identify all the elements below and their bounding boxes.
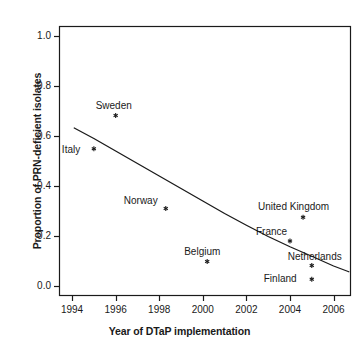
point-label-italy: Italy — [62, 145, 80, 155]
point-label-norway: Norway — [124, 196, 158, 206]
point-label-finland: Finland — [264, 274, 297, 284]
point-label-united-kingdom: United Kingdom — [258, 202, 329, 212]
x-tick-label-6: 2006 — [310, 305, 358, 315]
x-tick-label-2: 1998 — [135, 305, 183, 315]
y-tick-label-1: 0.2 — [17, 231, 51, 241]
point-label-sweden: Sweden — [96, 101, 132, 111]
x-tick-label-0: 1994 — [48, 305, 96, 315]
point-label-france: France — [256, 227, 287, 237]
marker-netherlands — [310, 263, 314, 268]
marker-italy — [92, 146, 96, 151]
marker-norway — [164, 206, 168, 211]
marker-sweden — [114, 113, 118, 118]
y-tick-label-0: 0.0 — [17, 281, 51, 291]
point-label-belgium: Belgium — [184, 247, 220, 257]
y-tick-label-2: 0.4 — [17, 181, 51, 191]
marker-united-kingdom — [301, 215, 305, 220]
point-label-netherlands: Netherlands — [288, 252, 342, 262]
y-tick-label-3: 0.6 — [17, 131, 51, 141]
y-tick-label-4: 0.8 — [17, 81, 51, 91]
x-tick-label-1: 1996 — [92, 305, 140, 315]
x-tick-label-3: 2000 — [179, 305, 227, 315]
x-tick-label-5: 2004 — [266, 305, 314, 315]
y-tick-label-5: 1.0 — [17, 31, 51, 41]
chart-figure: Proportion of PRN-deficient isolates Yea… — [0, 0, 359, 346]
x-tick-label-4: 2002 — [222, 305, 270, 315]
x-axis-title: Year of DTaP implementation — [0, 325, 359, 337]
marker-finland — [310, 277, 314, 282]
marker-france — [288, 239, 292, 244]
marker-belgium — [205, 259, 209, 264]
plot-area — [0, 0, 359, 346]
